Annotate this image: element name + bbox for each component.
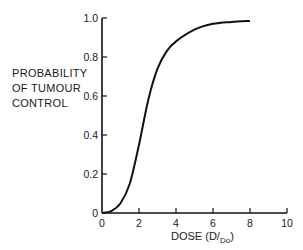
x-tick-label: 4: [173, 217, 179, 229]
axes: 00.20.40.60.81.00246810: [83, 12, 293, 229]
y-tick-label: 0.6: [83, 90, 98, 102]
x-tick-label: 10: [281, 217, 293, 229]
x-tick-label: 2: [136, 217, 142, 229]
x-axis-label: DOSE (D/Do): [171, 230, 234, 245]
y-tick-label: 1.0: [83, 12, 98, 24]
y-tick-label: 0.8: [83, 51, 98, 63]
x-tick-label: 0: [99, 217, 105, 229]
data-curve: [102, 21, 250, 213]
y-tick-label: 0.4: [83, 129, 98, 141]
chart-plot: 00.20.40.60.81.00246810 DOSE (D/Do): [0, 0, 303, 250]
y-tick-label: 0: [92, 207, 98, 219]
y-tick-label: 0.2: [83, 168, 98, 180]
x-tick-label: 6: [210, 217, 216, 229]
x-tick-label: 8: [247, 217, 253, 229]
